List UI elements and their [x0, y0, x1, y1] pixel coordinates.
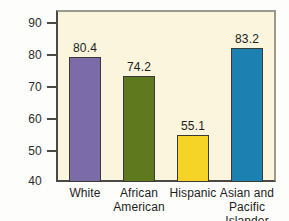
y-tick-label: 80: [28, 48, 42, 62]
bar-slot: 74.2: [112, 12, 166, 182]
bar-value-label: 74.2: [112, 60, 166, 74]
y-tick-mark: [47, 54, 56, 56]
bar-slot: 55.1: [166, 12, 220, 182]
bars-layer: 80.4 74.2 55.1 83.2: [58, 12, 274, 182]
bar-value-label: 80.4: [58, 41, 112, 55]
y-tick-label: 50: [28, 144, 42, 158]
x-category-line: Pacific Islander: [210, 200, 284, 221]
x-category-line: Asian and: [210, 186, 284, 200]
bar-slot: 83.2: [220, 12, 274, 182]
y-tick-label: 60: [28, 112, 42, 126]
x-category-asian-pacific-islander: Asian and Pacific Islander: [210, 186, 284, 221]
bar-value-label: 55.1: [166, 119, 220, 133]
y-tick-label: 90: [28, 16, 42, 30]
bar-white[interactable]: [69, 57, 101, 182]
bar-slot: 80.4: [58, 12, 112, 182]
bar-hispanic[interactable]: [177, 135, 209, 182]
x-axis-labels: White African American Hispanic Asian an…: [58, 186, 274, 221]
bar-asian-pacific-islander[interactable]: [231, 48, 263, 182]
y-tick-mark: [47, 118, 56, 120]
y-tick-mark: [47, 150, 56, 152]
y-tick-mark: [47, 22, 56, 24]
y-tick-mark: [47, 86, 56, 88]
y-tick-label: 70: [28, 80, 42, 94]
y-tick-label: 40: [28, 174, 42, 188]
x-category-line: American: [102, 200, 176, 214]
bar-african-american[interactable]: [123, 76, 155, 182]
bar-value-label: 83.2: [220, 32, 274, 46]
bar-chart: 90 80 70 60 50 40 80.4 74.2 55.1 83.2: [0, 0, 289, 221]
